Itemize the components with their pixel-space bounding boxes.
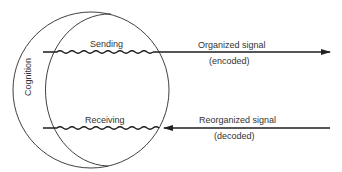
organized-signal-label: Organized signal — [198, 40, 266, 50]
cognition-label: Cognition — [23, 54, 33, 100]
sending-label: Sending — [90, 39, 123, 49]
encoded-label: (encoded) — [209, 56, 250, 66]
decoded-label: (decoded) — [214, 131, 255, 141]
receiving-wavy-line — [43, 127, 159, 130]
cognition-outer-circle — [13, 12, 169, 168]
cognition-inner-arc — [45, 14, 111, 166]
diagram-canvas — [0, 0, 342, 172]
sending-wavy-line — [43, 51, 153, 54]
receiving-label: Receiving — [85, 115, 125, 125]
reorganized-signal-label: Reorganized signal — [199, 115, 276, 125]
